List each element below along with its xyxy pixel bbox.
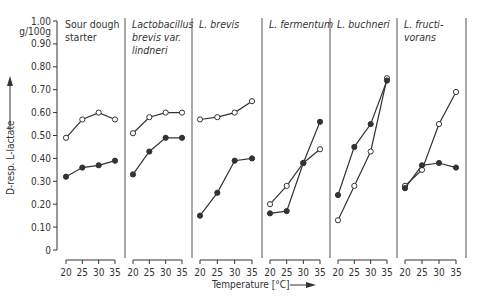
y-unit-label: g/100g: [19, 26, 51, 37]
x-tick-label: 30: [433, 267, 445, 278]
x-tick-label: 30: [365, 267, 377, 278]
filled-circle-marker: [232, 158, 237, 163]
x-tick-label: 30: [160, 267, 172, 278]
filled-circle-marker: [352, 144, 357, 149]
open-circle-marker: [179, 110, 184, 115]
panel-title: L. brevis: [199, 18, 239, 30]
x-tick-label: 30: [93, 267, 105, 278]
filled-circle-marker: [130, 172, 135, 177]
panels: Sour doughstarter20253035Lactobacillusbr…: [60, 18, 466, 278]
open-circle-marker: [335, 218, 340, 223]
filled-circle-marker: [317, 119, 322, 124]
y-tick-label: 0.10: [31, 222, 51, 233]
y-tick-label: 0.50: [31, 130, 51, 141]
series-line-open: [200, 101, 252, 119]
filled-circle-marker: [249, 156, 254, 161]
open-circle-marker: [368, 149, 373, 154]
y-tick-label: 0.80: [31, 61, 51, 72]
panel-4: L. fermentum20253035: [262, 18, 333, 278]
x-tick-label: 35: [246, 267, 257, 278]
open-circle-marker: [453, 89, 458, 94]
x-tick-label: 20: [399, 267, 411, 278]
filled-circle-marker: [301, 160, 306, 165]
panel-title: L. fructi-: [404, 18, 444, 30]
open-circle-marker: [317, 147, 322, 152]
x-tick-label: 25: [77, 267, 88, 278]
open-circle-marker: [215, 115, 220, 120]
x-tick-label: 35: [450, 267, 461, 278]
x-tick-label: 20: [194, 267, 206, 278]
series-line-open: [66, 113, 115, 138]
x-tick-label: 25: [416, 267, 427, 278]
panel-6: L. fructi-vorans20253035: [397, 18, 466, 278]
open-circle-marker: [267, 202, 272, 207]
panel-title: Sour dough: [65, 18, 119, 30]
lactate-temperature-chart: 00.100.200.300.400.500.600.700.800.901.0…: [0, 0, 480, 300]
x-tick-label: 25: [349, 267, 360, 278]
open-circle-marker: [163, 110, 168, 115]
x-tick-label: 35: [109, 267, 120, 278]
y-tick-label: 0.70: [31, 84, 51, 95]
filled-circle-marker: [197, 213, 202, 218]
x-tick-label: 25: [281, 267, 292, 278]
x-tick-label: 30: [229, 267, 241, 278]
series-line-open: [270, 149, 320, 204]
open-circle-marker: [63, 135, 68, 140]
filled-circle-marker: [436, 160, 441, 165]
y-axis: 00.100.200.300.400.500.600.700.800.901.0…: [19, 16, 57, 256]
filled-circle-marker: [147, 149, 152, 154]
x-tick-label: 35: [176, 267, 187, 278]
open-circle-marker: [197, 117, 202, 122]
x-tick-label: 35: [314, 267, 325, 278]
open-circle-marker: [96, 110, 101, 115]
filled-circle-marker: [112, 158, 117, 163]
x-tick-label: 25: [212, 267, 223, 278]
filled-circle-marker: [80, 165, 85, 170]
y-tick-label: 0.60: [31, 107, 51, 118]
y-tick-label: 0: [45, 245, 51, 256]
panel-title: vorans: [404, 31, 436, 43]
panel-2: Lactobacillusbrevis var.lindneri20253035: [125, 18, 194, 278]
filled-circle-marker: [402, 186, 407, 191]
series-line-filled: [133, 138, 182, 175]
filled-circle-marker: [267, 211, 272, 216]
y-tick-label: 1.00: [31, 16, 51, 27]
filled-circle-marker: [419, 163, 424, 168]
panel-title: Lactobacillus: [132, 18, 194, 30]
filled-circle-marker: [284, 208, 289, 213]
open-circle-marker: [232, 110, 237, 115]
series-line-filled: [200, 158, 252, 215]
series-line-open: [405, 92, 456, 186]
filled-circle-marker: [453, 165, 458, 170]
y-tick-label: 0.90: [31, 38, 51, 49]
panel-title: starter: [65, 31, 97, 43]
series-line-open: [133, 113, 182, 134]
y-tick-label: 0.40: [31, 153, 51, 164]
panel-1: Sour doughstarter20253035: [60, 18, 120, 278]
y-axis-label: D-resp. L-lactate: [5, 120, 16, 195]
x-axis-arrow-icon: [290, 282, 316, 288]
filled-circle-marker: [384, 78, 389, 83]
x-tick-label: 20: [264, 267, 276, 278]
filled-circle-marker: [96, 163, 101, 168]
filled-circle-marker: [215, 190, 220, 195]
open-circle-marker: [436, 121, 441, 126]
y-tick-label: 0.30: [31, 176, 51, 187]
filled-circle-marker: [63, 174, 68, 179]
filled-circle-marker: [163, 135, 168, 140]
open-circle-marker: [284, 183, 289, 188]
panel-title: L. fermentum: [269, 18, 333, 30]
series-line-filled: [405, 163, 456, 188]
open-circle-marker: [112, 117, 117, 122]
open-circle-marker: [80, 117, 85, 122]
filled-circle-marker: [179, 135, 184, 140]
panel-3: L. brevis20253035: [192, 18, 258, 278]
x-tick-label: 20: [60, 267, 72, 278]
open-circle-marker: [130, 131, 135, 136]
panel-title: L. buchneri: [337, 18, 390, 30]
panel-title: lindneri: [132, 44, 168, 56]
open-circle-marker: [352, 183, 357, 188]
panel-title: brevis var.: [132, 31, 181, 43]
x-tick-label: 30: [298, 267, 310, 278]
x-tick-label: 20: [127, 267, 139, 278]
